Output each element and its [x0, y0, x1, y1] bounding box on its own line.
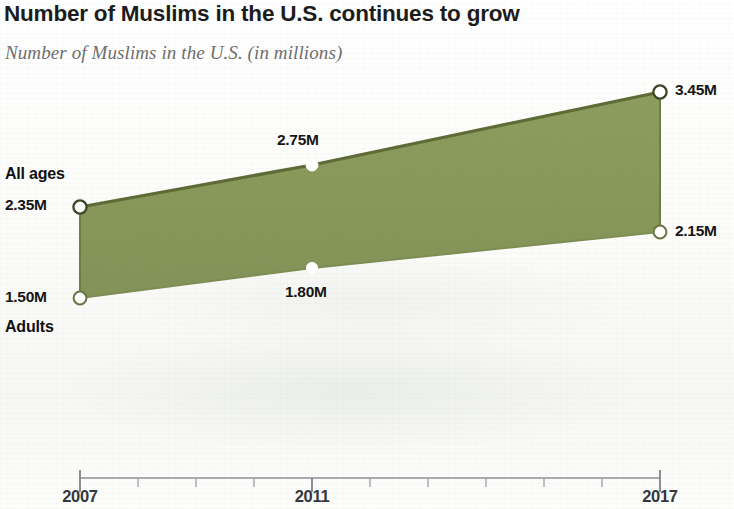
x-minor-ticks	[138, 478, 602, 487]
value-label-all-ages-2017: 3.45M	[675, 81, 717, 99]
series-label-adults: Adults	[5, 318, 54, 336]
marker-adults-2017	[654, 226, 667, 239]
area-chart	[0, 0, 734, 509]
value-label-adults-2017: 2.15M	[675, 222, 717, 240]
value-label-all-ages-2007: 2.35M	[5, 196, 47, 214]
series-label-all-ages: All ages	[5, 165, 65, 183]
band-fill	[80, 92, 660, 298]
marker-all-ages-2017	[653, 85, 666, 98]
marker-all-ages-2011	[306, 159, 318, 171]
value-label-adults-2011: 1.80M	[285, 283, 327, 301]
value-label-all-ages-2011: 2.75M	[277, 131, 319, 149]
marker-all-ages-2007	[73, 200, 86, 213]
value-label-adults-2007: 1.50M	[5, 288, 47, 306]
x-axis-label-2017: 2017	[642, 487, 678, 506]
x-axis-label-2007: 2007	[62, 487, 98, 506]
marker-adults-2011	[306, 262, 317, 273]
marker-adults-2007	[74, 292, 87, 305]
x-axis-label-2011: 2011	[295, 487, 330, 506]
